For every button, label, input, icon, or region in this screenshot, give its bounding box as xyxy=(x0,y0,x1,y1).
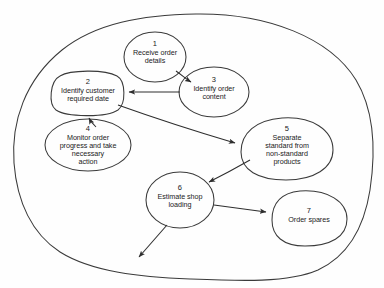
system-boundary xyxy=(14,14,373,280)
node-1-shape[interactable] xyxy=(124,32,186,82)
diagram-canvas: 1 Receive order details 2 Identify custo… xyxy=(0,0,384,288)
edge-2-to-5 xyxy=(118,105,235,143)
node-4-shape[interactable] xyxy=(45,119,131,171)
node-3-shape[interactable] xyxy=(179,67,249,117)
edge-5-to-6 xyxy=(209,160,250,182)
process-flow-diagram xyxy=(0,0,384,288)
node-5-shape[interactable] xyxy=(241,118,333,180)
node-7-shape[interactable] xyxy=(272,191,347,246)
edge-6-to-outside xyxy=(139,225,167,257)
edge-6-to-7 xyxy=(214,205,266,212)
node-2-shape[interactable] xyxy=(51,71,124,116)
node-6-shape[interactable] xyxy=(146,172,214,228)
